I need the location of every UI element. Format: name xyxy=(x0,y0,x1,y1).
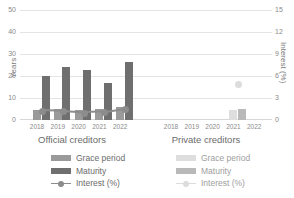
y-axis-right-tick: 15 xyxy=(275,6,291,14)
legend-item-maturity[interactable]: Maturity xyxy=(51,165,125,178)
y-axis-right-tick: 0 xyxy=(275,116,291,124)
legend-item-grace-period[interactable]: Grace period xyxy=(176,152,250,165)
y-axis-left-tick: 10 xyxy=(0,94,16,102)
legend-item-grace-period[interactable]: Grace period xyxy=(51,152,125,165)
y-axis-right-tick: 6 xyxy=(275,72,291,80)
panel-private-creditors xyxy=(166,10,270,120)
group-title-private-creditors: Private creditors xyxy=(154,134,258,145)
legend-label-interest: Interest (%) xyxy=(201,177,245,190)
y-axis-left-tick: 40 xyxy=(0,28,16,36)
interest-marker-2018 xyxy=(39,108,46,115)
interest-marker-2020 xyxy=(81,110,88,117)
group-title-official-creditors: Official creditors xyxy=(20,134,124,145)
legend-swatch-interest-line-icon xyxy=(176,180,196,186)
legend-item-interest[interactable]: Interest (%) xyxy=(51,177,125,190)
bar-slot-2019 xyxy=(53,10,74,120)
legend-official-creditors: Grace period Maturity Interest (%) xyxy=(51,152,125,190)
legend-item-maturity[interactable]: Maturity xyxy=(176,165,250,178)
y-axis-left-tick: 30 xyxy=(0,50,16,58)
bar-maturity-2021 xyxy=(238,109,246,120)
y-axis-left-tick: 50 xyxy=(0,6,16,14)
legend-swatch-maturity-icon xyxy=(51,168,71,174)
legend-swatch-interest-line-icon xyxy=(51,180,71,186)
legend-label-interest: Interest (%) xyxy=(76,177,120,190)
plot-area xyxy=(20,10,272,120)
legend-swatch-maturity-icon xyxy=(176,168,196,174)
legend-private-creditors: Grace period Maturity Interest (%) xyxy=(176,152,250,190)
bar-grace-period-2021 xyxy=(229,110,237,120)
legend-item-interest[interactable]: Interest (%) xyxy=(176,177,250,190)
legend-label-grace-period: Grace period xyxy=(76,152,125,165)
panel-official-creditors xyxy=(32,10,136,120)
bar-slot-2021 xyxy=(228,10,249,120)
y-axis-left-tick: 0 xyxy=(0,116,16,124)
bar-slot-2018 xyxy=(32,10,53,120)
bar-slot-2022 xyxy=(115,10,136,120)
bar-slot-2021 xyxy=(94,10,115,120)
x-tick-official-2022: 2022 xyxy=(107,123,133,130)
y-axis-right-tick: 9 xyxy=(275,50,291,58)
x-tick-private-2022: 2022 xyxy=(241,123,267,130)
y-axis-right-tick: 3 xyxy=(275,94,291,102)
legend-label-grace-period: Grace period xyxy=(201,152,250,165)
legend-swatch-grace-period-icon xyxy=(51,155,71,161)
y-axis-right-tick: 12 xyxy=(275,28,291,36)
legend-label-maturity: Maturity xyxy=(76,165,106,178)
chart-figure: Years 50 40 30 20 10 0 Interest (%) 15 1… xyxy=(0,0,294,198)
y-axis-left-tick: 20 xyxy=(0,72,16,80)
legend-swatch-grace-period-icon xyxy=(176,155,196,161)
legend-label-maturity: Maturity xyxy=(201,165,231,178)
bar-slot-2020 xyxy=(74,10,95,120)
